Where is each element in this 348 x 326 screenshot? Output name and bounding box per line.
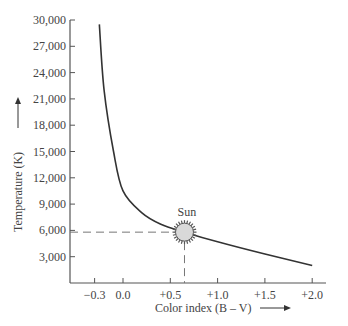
y-axis-arrow-head: [15, 97, 21, 104]
y-tick-label: 3,000: [39, 250, 66, 264]
x-axis-title: Color index (B – V): [155, 301, 291, 315]
sun-marker: [172, 220, 196, 244]
ticks: 3,0006,0009,00012,00015,00018,00021,0002…: [33, 13, 323, 302]
x-tick-label: 0.0: [116, 288, 131, 302]
y-axis-label: Temperature (K): [11, 152, 25, 232]
x-axis-arrow-head: [284, 305, 291, 311]
x-tick-label: +0.5: [159, 288, 181, 302]
sun-guide-lines: [70, 232, 184, 283]
y-tick-label: 6,000: [39, 223, 66, 237]
y-axis-title: Temperature (K): [11, 97, 25, 232]
y-tick-label: 21,000: [33, 92, 66, 106]
y-tick-label: 27,000: [33, 39, 66, 53]
x-axis-label: Color index (B – V): [155, 301, 251, 315]
y-tick-label: 30,000: [33, 13, 66, 27]
sun-label: Sun: [177, 205, 196, 219]
y-tick-label: 12,000: [33, 171, 66, 185]
y-tick-label: 24,000: [33, 66, 66, 80]
temperature-color-index-chart: 3,0006,0009,00012,00015,00018,00021,0002…: [0, 0, 348, 326]
y-tick-label: 15,000: [33, 145, 66, 159]
x-tick-label: +1.5: [254, 288, 276, 302]
y-tick-label: 18,000: [33, 118, 66, 132]
data-curve: [99, 24, 312, 265]
axes: [70, 20, 326, 283]
x-tick-label: +1.0: [207, 288, 229, 302]
sun-disc-icon: [175, 223, 193, 241]
x-tick-label: −0.3: [84, 288, 106, 302]
x-tick-label: +2.0: [301, 288, 323, 302]
y-tick-label: 9,000: [39, 197, 66, 211]
